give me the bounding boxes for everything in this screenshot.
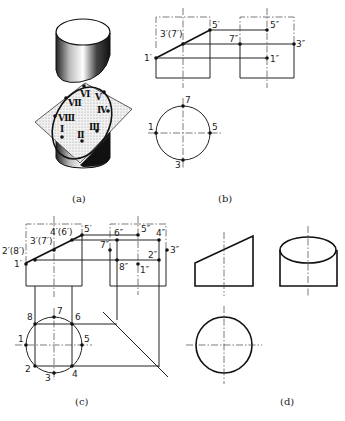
label-b-3: 3	[175, 160, 181, 170]
roman-label-8: Ⅷ	[57, 113, 75, 123]
label-c-6dprime: 6″	[114, 228, 124, 238]
label-c-37prime: 3′(7′)	[30, 236, 53, 246]
panel-b-three-views: 1′ 3′(7′) 5′ 5″ 7″ 3″ 1″ 1 3 5 7 (b)	[144, 8, 306, 204]
label-c-1: 1	[18, 334, 24, 344]
label-b-7: 7	[185, 95, 191, 105]
panel-d-result: (d)	[186, 226, 337, 407]
label-c-3: 3	[45, 373, 51, 383]
label-c-7: 7	[57, 306, 63, 316]
label-c-4dprime: 4″	[156, 228, 166, 238]
label-b-37prime: 3′(7′)	[160, 29, 183, 39]
upper-cylinder-top	[56, 19, 110, 45]
caption-c: (c)	[75, 396, 89, 407]
roman-label-7: Ⅶ	[67, 98, 82, 108]
label-c-5dprime: 5″	[141, 224, 151, 234]
label-b-7dprime: 7″	[229, 34, 239, 44]
projection-figure: Ⅰ Ⅱ Ⅲ Ⅳ Ⅴ Ⅵ Ⅶ Ⅷ (a) 1′ 3′(7′) 5′ 5″ 7″	[0, 0, 345, 421]
label-c-7dprime: 7″	[100, 240, 110, 250]
label-c-5: 5	[84, 334, 90, 344]
label-b-1dprime: 1″	[270, 54, 280, 64]
label-c-3dprime: 3″	[170, 245, 180, 255]
caption-b: (b)	[218, 193, 232, 204]
label-c-46prime: 4′(6′)	[50, 227, 73, 237]
caption-d: (d)	[280, 396, 294, 407]
panel-a-isometric: Ⅰ Ⅱ Ⅲ Ⅳ Ⅴ Ⅵ Ⅶ Ⅷ (a)	[35, 19, 132, 204]
roman-label-5: Ⅴ	[94, 92, 103, 102]
caption-a: (a)	[72, 193, 86, 204]
miter-line-45deg	[103, 312, 168, 377]
label-c-8dprime: 8″	[119, 262, 129, 272]
label-b-5prime: 5′	[212, 20, 220, 30]
label-c-1dprime: 1″	[140, 265, 150, 275]
roman-label-2: Ⅱ	[77, 130, 85, 140]
label-c-28prime: 2′(8′)	[2, 246, 25, 256]
label-b-3dprime: 3″	[296, 39, 306, 49]
d-side-outline	[280, 250, 337, 286]
label-c-2dprime: 2″	[148, 250, 158, 260]
panel-c-construction: 1′ 2′(8′) 3′(7′) 4′(6′) 5′ 6″ 5″ 4″ 7″ 3…	[2, 216, 180, 407]
label-b-5dprime: 5″	[270, 20, 280, 30]
roman-label-4: Ⅳ	[97, 105, 108, 115]
label-b-5: 5	[212, 122, 218, 132]
label-c-4: 4	[72, 369, 78, 379]
label-c-5prime: 5′	[84, 224, 92, 234]
label-b-1: 1	[148, 122, 154, 132]
label-b-1prime: 1′	[144, 53, 152, 63]
roman-label-1: Ⅰ	[60, 124, 64, 134]
label-c-6: 6	[75, 312, 81, 322]
label-c-8: 8	[27, 312, 33, 322]
label-c-2: 2	[25, 364, 31, 374]
label-c-1prime: 1′	[14, 259, 22, 269]
roman-label-3: Ⅲ	[89, 122, 100, 132]
